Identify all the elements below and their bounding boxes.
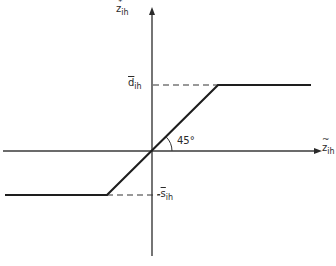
upper-level-label: dih [128,78,142,91]
lower-level-label: -sih [157,189,173,202]
saturation-diagram [0,0,336,266]
y-axis-arrow-icon [149,7,155,15]
angle-arc [166,137,172,151]
y-axis-label: * zih [116,4,129,17]
x-axis-arrow-icon [314,148,322,154]
angle-label: 45° [177,136,195,146]
x-axis-label: ~ zih [322,143,335,156]
saturation-curve [5,85,311,195]
